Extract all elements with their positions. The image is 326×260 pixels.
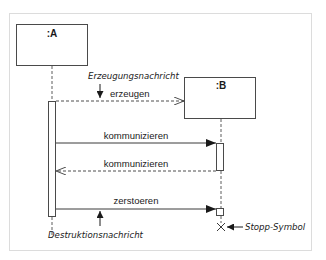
stop-annotation: Stopp-Symbol — [245, 222, 306, 232]
activation-b — [217, 144, 224, 171]
message-destroy-label: zerstoeren — [114, 195, 159, 206]
message-create-label: erzeugen — [110, 88, 150, 99]
activation-b-final — [217, 209, 224, 216]
destruction-annotation: Destruktionsnachricht — [48, 230, 144, 240]
message-return-label: kommunizieren — [104, 158, 168, 169]
activation-a — [49, 102, 56, 217]
object-a: :A — [17, 25, 88, 66]
message-call-label: kommunizieren — [104, 130, 168, 141]
sequence-diagram: :A :B Erzeugungsnachricht erzeugen kommu… — [0, 0, 326, 260]
object-a-label: :A — [47, 28, 58, 39]
creation-annotation: Erzeugungsnachricht — [88, 71, 179, 81]
object-b: :B — [185, 78, 256, 119]
object-b-label: :B — [216, 80, 227, 91]
